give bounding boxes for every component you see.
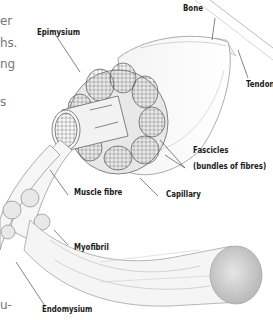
label-myofibril: Myofibril	[74, 241, 109, 253]
label-endomysium: Endomysium	[42, 303, 92, 315]
body-text-fragment: hs.	[0, 36, 17, 50]
myofibril-cylinder	[24, 220, 262, 306]
body-text-fragment: ng	[0, 57, 15, 71]
label-bone: Bone	[183, 2, 203, 14]
body-text-fragment: er	[0, 14, 12, 28]
body-text-fragment: u-	[0, 298, 12, 312]
label-fascicles: Fascicles	[193, 144, 228, 156]
label-capillary: Capillary	[166, 188, 201, 200]
label-epimysium: Epimysium	[37, 26, 80, 38]
label-fascicles-note: (bundles of fibres)	[193, 160, 266, 172]
body-text-fragment: s	[0, 95, 6, 109]
label-tendon: Tendon	[246, 78, 273, 90]
label-muscle-fibre: Muscle fibre	[74, 186, 122, 198]
